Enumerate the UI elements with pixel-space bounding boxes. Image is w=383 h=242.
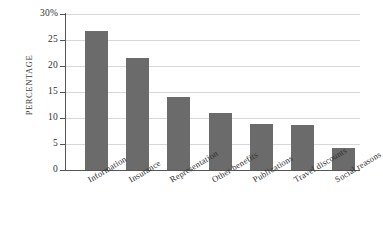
y-axis-tick — [60, 66, 65, 67]
y-axis-tick-label-wrap: 15 — [0, 86, 58, 98]
y-axis-tick-label: 5 — [2, 138, 58, 148]
y-axis-tick — [60, 92, 65, 93]
bar — [209, 113, 232, 170]
bar — [85, 31, 108, 170]
y-axis-tick-label: 15 — [2, 86, 58, 96]
y-axis-tick-label-wrap: 30% — [0, 8, 58, 20]
plot-area — [66, 14, 360, 170]
gridline — [66, 66, 360, 67]
gridline — [66, 92, 360, 93]
y-axis-tick — [60, 170, 65, 171]
y-axis-tick-label: 20 — [2, 60, 58, 70]
y-axis-tick-label-wrap: 10 — [0, 112, 58, 124]
y-axis-tick-label: 25 — [2, 34, 58, 44]
gridline — [66, 40, 360, 41]
y-axis-tick — [60, 118, 65, 119]
y-axis-tick-label: 0 — [2, 164, 58, 174]
y-axis-tick-label: 10 — [2, 112, 58, 122]
y-axis-tick-label: 30% — [2, 8, 58, 18]
bar — [126, 58, 149, 170]
y-axis-tick — [60, 14, 65, 15]
y-axis-tick-label-wrap: 5 — [0, 138, 58, 150]
y-axis-tick — [60, 40, 65, 41]
y-axis-tick-label-wrap: 25 — [0, 34, 58, 46]
y-axis-tick — [60, 144, 65, 145]
bar — [250, 124, 273, 170]
bar — [167, 97, 190, 170]
y-axis-tick-label-wrap: 0 — [0, 164, 58, 176]
y-axis-tick-label-wrap: 20 — [0, 60, 58, 72]
gridline — [66, 14, 360, 15]
